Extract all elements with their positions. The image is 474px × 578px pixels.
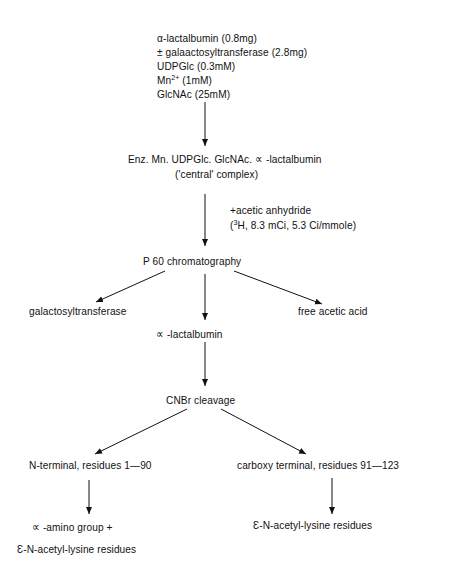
p60-chromatography: P 60 chromatography [143, 254, 241, 268]
n-product-lysine: Ɛ-N-acetyl-lysine residues [17, 542, 136, 556]
cnbr-cleavage: CNBr cleavage [166, 393, 235, 407]
reagent-glcnac: GlcNAc (25mM) [157, 87, 230, 101]
galactosyltransferase-output: galactosyltransferase [29, 304, 126, 318]
mn-symbol: Mn [157, 74, 171, 86]
central-complex-label: ('central' complex) [175, 167, 258, 181]
central-complex-formula: Enz. Mn. UDPGlc. GlcNAc. ∝ -lactalbumin [128, 152, 322, 166]
reagent-galactosyltransferase: ± galaactosyltransferase (2.8mg) [157, 45, 307, 59]
reagent-mn: Mn2+ (1mM) [157, 73, 212, 87]
reagent-lactalbumin: α-lactalbumin (0.8mg) [157, 31, 257, 45]
c-terminal-fragment: carboxy terminal, residues 91—123 [237, 458, 399, 472]
n-terminal-fragment: N-terminal, residues 1—90 [29, 458, 152, 472]
reagent-udpglc: UDPGlc (0.3mM) [157, 59, 235, 73]
tritium-activity: H, 8.3 mCi, 5.3 Ci/mmole) [237, 219, 356, 231]
tritium-spec: (3H, 8.3 mCi, 5.3 Ci/mmole) [230, 218, 356, 232]
arrow-to-free-acid [234, 271, 322, 304]
arrows-layer [0, 0, 474, 578]
arrow-to-galactosyltransferase [96, 271, 165, 302]
lactalbumin-output: ∝ -lactalbumin [156, 327, 223, 341]
arrow-to-n-terminal [95, 409, 187, 454]
mn-concentration: (1mM) [179, 74, 212, 86]
c-product-lysine: Ɛ-N-acetyl-lysine residues [253, 518, 372, 532]
reagent-acetic-anhydride: +acetic anhydride [230, 203, 311, 217]
mn-charge: 2+ [171, 73, 179, 82]
free-acetic-acid-output: free acetic acid [298, 304, 367, 318]
n-product-alpha-amino: ∝ -amino group + [32, 520, 112, 534]
arrow-to-c-terminal [221, 409, 306, 454]
